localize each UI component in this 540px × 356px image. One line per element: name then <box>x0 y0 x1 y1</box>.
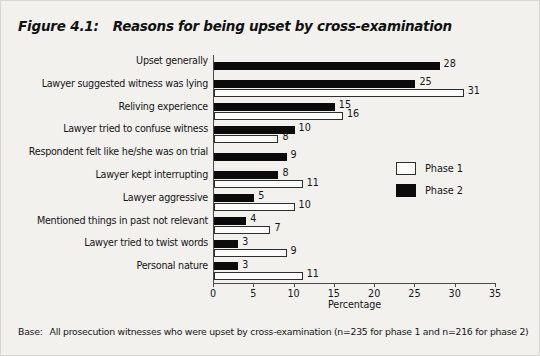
bar-value-phase-1: 11 <box>307 269 319 279</box>
x-tick <box>495 283 496 287</box>
bar-phase-2 <box>214 62 440 70</box>
bar-phase-2 <box>214 262 238 270</box>
x-tick-label: 25 <box>408 288 420 299</box>
bar-value-phase-2: 9 <box>291 150 297 160</box>
category-label: Mentioned things in past not relevant <box>0 215 208 226</box>
base-note: Base:All prosecution witnesses who were … <box>18 326 528 337</box>
bar-value-phase-1: 9 <box>291 246 297 256</box>
bar-phase-1 <box>214 180 303 188</box>
bar-value-phase-2: 4 <box>250 214 256 224</box>
chart-plot-region: Upset generally28Lawyer suggested witnes… <box>14 47 526 312</box>
x-tick <box>455 283 456 287</box>
page-title: Reasons for being upset by cross-examina… <box>113 18 452 34</box>
bar-group: 2531 <box>214 78 526 101</box>
bar-row: Upset generally28 <box>14 55 526 78</box>
bar-phase-1 <box>214 89 464 97</box>
x-tick-label: 15 <box>328 288 340 299</box>
bar-group: 1516 <box>214 101 526 124</box>
bar-phase-2 <box>214 171 278 179</box>
category-label: Upset generally <box>0 55 208 66</box>
legend-label-phase-1: Phase 1 <box>425 163 463 174</box>
bar-value-phase-2: 28 <box>444 59 456 69</box>
bar-row: Lawyer suggested witness was lying2531 <box>14 78 526 101</box>
figure-container: Figure 4.1: Reasons for being upset by c… <box>0 0 540 356</box>
x-tick <box>213 283 214 287</box>
x-tick-label: 35 <box>489 288 501 299</box>
bar-value-phase-2: 25 <box>419 77 431 87</box>
bar-phase-2 <box>214 153 287 161</box>
category-label: Lawyer tried to confuse witness <box>0 123 208 134</box>
bar-value-phase-2: 8 <box>282 168 288 178</box>
bar-phase-1 <box>214 112 343 120</box>
bar-phase-1 <box>214 135 278 143</box>
bar-row: Mentioned things in past not relevant47 <box>14 215 526 238</box>
x-tick <box>294 283 295 287</box>
bar-phase-1 <box>214 272 303 280</box>
x-tick-label: 0 <box>210 288 216 299</box>
bar-row: Lawyer tried to twist words39 <box>14 237 526 260</box>
bar-group: 39 <box>214 237 526 260</box>
legend-label-phase-2: Phase 2 <box>425 185 463 196</box>
bar-value-phase-1: 31 <box>468 86 480 96</box>
x-tick-label: 20 <box>368 288 380 299</box>
bar-phase-1 <box>214 249 287 257</box>
category-label: Lawyer tried to twist words <box>0 237 208 248</box>
bar-group: 28 <box>214 55 526 78</box>
category-label: Respondent felt like he/she was on trial <box>0 146 208 157</box>
bar-phase-2 <box>214 80 415 88</box>
category-label: Lawyer kept interrupting <box>0 169 208 180</box>
bar-group: 311 <box>214 260 526 283</box>
bar-phase-2 <box>214 103 335 111</box>
bar-value-phase-1: 10 <box>299 200 311 210</box>
x-tick-label: 10 <box>287 288 299 299</box>
base-note-text: All prosecution witnesses who were upset… <box>50 326 529 337</box>
category-label: Reliving experience <box>0 101 208 112</box>
figure-number: Figure 4.1: <box>18 18 99 34</box>
x-tick <box>414 283 415 287</box>
bar-row: Lawyer tried to confuse witness108 <box>14 123 526 146</box>
bar-group: 47 <box>214 215 526 238</box>
x-tick-label: 5 <box>250 288 256 299</box>
bar-value-phase-1: 7 <box>274 223 280 233</box>
bar-phase-1 <box>214 226 270 234</box>
bar-phase-2 <box>214 217 246 225</box>
chart-legend: Phase 1 Phase 2 <box>396 157 506 201</box>
bar-row: Personal nature311 <box>14 260 526 283</box>
x-tick <box>334 283 335 287</box>
bar-phase-2 <box>214 194 254 202</box>
x-axis-title: Percentage <box>213 299 496 310</box>
x-tick-label: 30 <box>449 288 461 299</box>
bar-value-phase-1: 16 <box>347 109 359 119</box>
bar-value-phase-2: 10 <box>299 123 311 133</box>
category-label: Personal nature <box>0 260 208 271</box>
bar-value-phase-1: 11 <box>307 178 319 188</box>
bar-value-phase-2: 5 <box>258 191 264 201</box>
category-label: Lawyer aggressive <box>0 192 208 203</box>
bar-phase-2 <box>214 240 238 248</box>
bar-value-phase-2: 3 <box>242 237 248 247</box>
bar-phase-1 <box>214 203 295 211</box>
bar-row: Reliving experience1516 <box>14 101 526 124</box>
bar-value-phase-1: 8 <box>282 132 288 142</box>
bar-value-phase-2: 3 <box>242 260 248 270</box>
legend-item-phase-2: Phase 2 <box>396 179 506 201</box>
base-note-lead: Base: <box>18 326 43 337</box>
legend-swatch-phase-2-icon <box>396 184 416 197</box>
x-tick <box>374 283 375 287</box>
legend-swatch-phase-1-icon <box>396 162 416 175</box>
x-tick <box>253 283 254 287</box>
legend-item-phase-1: Phase 1 <box>396 157 506 179</box>
figure-title-row: Figure 4.1: Reasons for being upset by c… <box>18 18 522 40</box>
bar-group: 108 <box>214 123 526 146</box>
category-label: Lawyer suggested witness was lying <box>0 78 208 89</box>
